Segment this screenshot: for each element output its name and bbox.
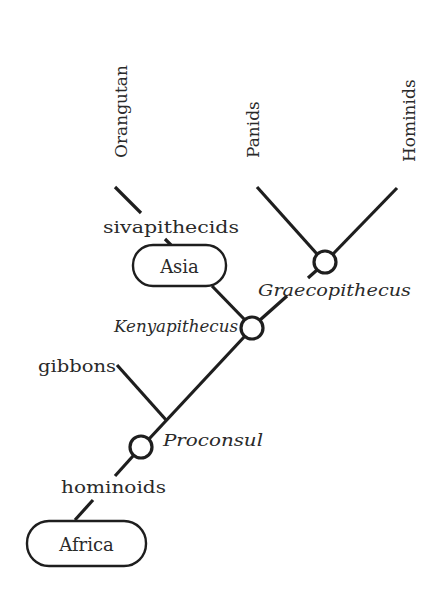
trunk-proconsul-segment: [149, 336, 245, 439]
group-label-gibbons: gibbons: [38, 356, 116, 376]
trunk-africa-segment: [75, 500, 93, 520]
kenyapithecus-node: [241, 317, 263, 339]
trunk-hominoids-segment: [115, 456, 133, 476]
node-label-proconsul: Proconsul: [162, 431, 263, 450]
graecopithecus-node: [314, 251, 336, 273]
proconsul-node: [130, 436, 152, 458]
region-label-asia: Asia: [159, 256, 199, 277]
taxon-label-orangutan: Orangutan: [111, 65, 131, 158]
taxon-label-hominids: Hominids: [399, 79, 419, 162]
trunk-graeco-lower-segment: [308, 270, 317, 278]
group-label-sivapithecids: sivapithecids: [103, 217, 239, 237]
asia-to-kenyapithecus-branch: [212, 286, 245, 320]
region-label-africa: Africa: [58, 534, 114, 555]
orangutan-branch: [115, 187, 141, 213]
group-label-hominoids: hominoids: [61, 477, 166, 497]
node-label-graecopithecus: Graecopithecus: [258, 281, 411, 300]
taxon-label-panids: Panids: [243, 101, 263, 158]
gibbons-branch: [117, 365, 167, 421]
panids-branch: [257, 187, 317, 254]
hominids-branch: [333, 188, 397, 254]
phylogeny-diagram: Orangutan Panids Hominids sivapithecids …: [0, 0, 441, 591]
node-label-kenyapithecus: Kenyapithecus: [113, 317, 238, 336]
